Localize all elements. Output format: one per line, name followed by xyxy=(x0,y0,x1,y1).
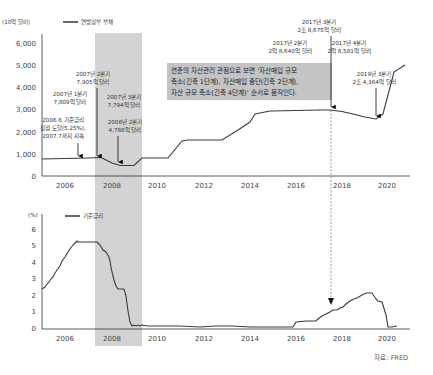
svg-text:2020: 2020 xyxy=(378,182,396,190)
svg-text:1: 1 xyxy=(32,308,36,316)
svg-text:2: 2 xyxy=(32,292,36,300)
annotation-2017q4: 2017년 4분기 2억 8,581억 달러 xyxy=(327,39,370,55)
svg-text:2012: 2012 xyxy=(195,182,213,190)
chart-canvas: (10억 달러) 연방정부 부채 6,000 5,000 4,000 3,000… xyxy=(0,0,433,375)
upper-unit-label: (10억 달러) xyxy=(2,18,30,26)
svg-text:3,000: 3,000 xyxy=(16,106,36,114)
svg-text:7,905억 달러: 7,905억 달러 xyxy=(77,78,110,86)
svg-text:2018: 2018 xyxy=(333,182,351,190)
svg-text:2016: 2016 xyxy=(287,182,305,190)
svg-text:6: 6 xyxy=(32,226,37,234)
svg-text:2020: 2020 xyxy=(378,335,396,343)
svg-text:2007년 1분기: 2007년 1분기 xyxy=(53,90,88,98)
svg-text:7,809억 달러: 7,809억 달러 xyxy=(54,98,87,106)
svg-text:2007.7까지 지속: 2007.7까지 지속 xyxy=(42,132,83,140)
upper-y-ticks: 6,000 5,000 4,000 3,000 2,000 1,000 0 xyxy=(16,40,36,181)
svg-text:2조 8,675억 달러: 2조 8,675억 달러 xyxy=(297,26,340,34)
annotation-2017q2: 2017년 2분기 2억 8,640억 달러 xyxy=(268,39,311,55)
upper-legend-label: 연방정부 부채 xyxy=(81,18,113,26)
svg-text:2억 8,640억 달러: 2억 8,640억 달러 xyxy=(268,47,311,55)
svg-text:2019년 3분기: 2019년 3분기 xyxy=(357,70,392,78)
svg-text:4: 4 xyxy=(32,259,37,267)
annotation-2019q3: 2019년 3분기 2조 4,364억 달러 xyxy=(352,70,395,86)
svg-text:2017년 2분기: 2017년 2분기 xyxy=(273,39,308,47)
callout-line-1: 연준의 자산관리 관점으로 보면 '자산매입 규모 xyxy=(171,66,297,75)
svg-text:정점 도달(5.25%),: 정점 도달(5.25%), xyxy=(40,124,86,131)
svg-text:2006: 2006 xyxy=(56,182,74,190)
upper-x-ticks: 2006 2008 2010 2012 2014 2016 2018 2020 xyxy=(56,182,396,190)
svg-text:2006: 2006 xyxy=(56,335,74,343)
svg-text:2010: 2010 xyxy=(148,182,166,190)
svg-text:2,000: 2,000 xyxy=(16,129,36,137)
svg-text:2007년 3분기: 2007년 3분기 xyxy=(107,93,142,101)
lower-legend-label: 기준금리 xyxy=(83,212,103,220)
svg-text:2조 4,364억 달러: 2조 4,364억 달러 xyxy=(352,78,395,86)
svg-text:2008: 2008 xyxy=(103,335,121,343)
svg-text:1,000: 1,000 xyxy=(16,151,36,159)
svg-text:2018: 2018 xyxy=(333,335,351,343)
svg-text:2014: 2014 xyxy=(241,182,259,190)
annotation-2006-peak: 2006.6 기준금리 정점 도달(5.25%), 2007.7까지 지속 xyxy=(40,116,86,140)
lower-y-ticks: 6 5 4 3 2 1 0 xyxy=(32,226,37,333)
svg-text:4,000: 4,000 xyxy=(16,84,36,92)
callout-line-2: 축소(긴축 1단계), 자산매입 중단(긴축 2단계), xyxy=(171,77,298,86)
source-label: 자료: FRED xyxy=(374,353,408,362)
callout-line-3: 자산 규모 축소(긴축 4단계)' 순서로 움직인다. xyxy=(171,88,297,97)
svg-text:5: 5 xyxy=(32,242,36,250)
svg-text:2012: 2012 xyxy=(195,335,213,343)
svg-text:0: 0 xyxy=(32,173,36,181)
annotation-2007q1: 2007년 1분기 7,809억 달러 xyxy=(53,90,88,106)
annotation-2017q3: 2017년 3분기 2조 8,675억 달러 xyxy=(297,18,340,34)
svg-text:2014: 2014 xyxy=(241,335,259,343)
svg-text:2017년 3분기: 2017년 3분기 xyxy=(302,18,337,26)
svg-text:2008년 2분기: 2008년 2분기 xyxy=(108,118,143,126)
svg-text:2007년 2분기: 2007년 2분기 xyxy=(76,70,111,78)
svg-text:2010: 2010 xyxy=(148,335,166,343)
svg-text:3: 3 xyxy=(32,275,36,283)
svg-text:4,788억 달러: 4,788억 달러 xyxy=(109,126,142,134)
svg-text:7,794억 달러: 7,794억 달러 xyxy=(108,101,141,109)
svg-text:2008: 2008 xyxy=(103,182,121,190)
svg-text:0: 0 xyxy=(32,325,36,333)
lower-x-ticks: 2006 2008 2010 2012 2014 2016 2018 2020 xyxy=(56,335,396,343)
svg-text:2006.6 기준금리: 2006.6 기준금리 xyxy=(42,116,83,124)
svg-text:2억 8,581억 달러: 2억 8,581억 달러 xyxy=(327,47,370,55)
svg-text:2017년 4분기: 2017년 4분기 xyxy=(332,39,367,47)
arrow-connector-head xyxy=(328,298,334,305)
svg-text:6,000: 6,000 xyxy=(16,40,36,48)
svg-text:5,000: 5,000 xyxy=(16,62,36,70)
svg-text:2016: 2016 xyxy=(287,335,305,343)
upper-chart: (10억 달러) 연방정부 부채 6,000 5,000 4,000 3,000… xyxy=(2,18,410,190)
lower-unit-label: (%) xyxy=(28,212,38,218)
lower-chart: (%) 기준금리 6 5 4 3 2 1 0 2006 2008 2010 20… xyxy=(28,212,410,343)
